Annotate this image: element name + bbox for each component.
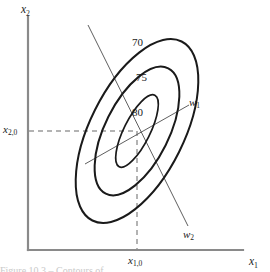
contour-label-80: 80: [132, 107, 143, 118]
caption-fragment: Figure 10.3 – Contours of: [0, 265, 270, 272]
y-axis-label: x2: [21, 4, 30, 16]
principal-axis-label-w2: w2: [183, 229, 194, 240]
contour-plot-figure: x2 x1 x1,0 x2,0 w1 w2 70 75 80 Figure 10…: [0, 0, 270, 272]
contour-label-70: 70: [132, 37, 143, 48]
contour-label-75: 75: [136, 72, 147, 83]
tick-label-x2-0: x2,0: [3, 124, 17, 135]
guide-lines: [29, 131, 137, 249]
principal-axis-label-w1: w1: [189, 97, 200, 108]
axis-group: [28, 17, 243, 250]
